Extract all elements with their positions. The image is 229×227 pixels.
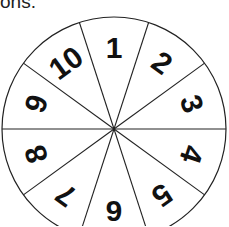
label-6: 6	[106, 195, 123, 227]
number-spinner: 1 2 3 4 5 6 7 8 9 10	[0, 0, 229, 226]
label-1: 1	[106, 31, 123, 64]
